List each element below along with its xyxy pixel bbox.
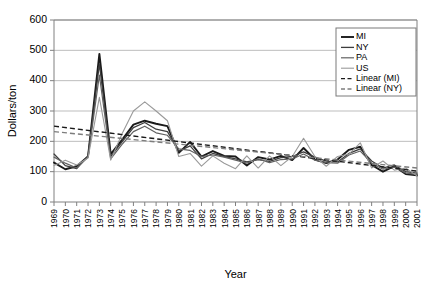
x-tick-label: 1995: [344, 209, 354, 228]
x-tick-label: 1999: [390, 209, 400, 228]
x-tick-label: 1972: [83, 209, 93, 228]
y-axis-title: Dollars/ton: [6, 85, 18, 138]
x-tick-label: 1976: [129, 209, 139, 228]
x-tick-label: 1975: [117, 209, 127, 228]
x-tick-label: 1977: [140, 209, 150, 228]
y-tick-label: 500: [29, 43, 47, 55]
x-axis-title: Year: [224, 268, 247, 280]
x-tick-label: 1985: [231, 209, 241, 228]
x-tick-label: 1974: [106, 209, 116, 228]
x-tick-label: 1996: [356, 209, 366, 228]
legend-label: US: [356, 63, 369, 73]
x-tick-label: 1970: [61, 209, 71, 228]
chart-canvas: 0100200300400500600196919701971197219731…: [0, 0, 436, 285]
legend-label: Linear (MI): [356, 73, 400, 83]
y-tick-label: 0: [41, 195, 47, 207]
y-tick-label: 400: [29, 73, 47, 85]
x-tick-label: 1986: [242, 209, 252, 228]
y-tick-label: 600: [29, 13, 47, 25]
x-tick-label: 1984: [220, 209, 230, 228]
x-tick-label: 1973: [95, 209, 105, 228]
y-tick-label: 200: [29, 134, 47, 146]
x-tick-label: 1988: [265, 209, 275, 228]
legend: MINYPAUSLinear (MI)Linear (NY): [336, 28, 416, 96]
y-tick-label: 100: [29, 164, 47, 176]
x-tick-label: 1990: [288, 209, 298, 228]
x-tick-label: 1969: [49, 209, 59, 228]
legend-label: PA: [356, 52, 367, 62]
x-tick-label: 1989: [276, 209, 286, 228]
x-tick-label: 1982: [197, 209, 207, 228]
x-tick-label: 1981: [186, 209, 196, 228]
x-tick-label: 1992: [310, 209, 320, 228]
line-chart: 0100200300400500600196919701971197219731…: [0, 0, 436, 285]
x-tick-label: 1997: [367, 209, 377, 228]
x-tick-label: 1993: [322, 209, 332, 228]
legend-label: Linear (NY): [356, 83, 402, 93]
legend-label: NY: [356, 42, 369, 52]
x-tick-label: 1983: [208, 209, 218, 228]
x-tick-label: 1978: [151, 209, 161, 228]
x-tick-label: 2000: [401, 209, 411, 228]
x-tick-label: 2001: [412, 209, 422, 228]
x-tick-label: 1971: [72, 209, 82, 228]
x-tick-label: 1994: [333, 209, 343, 228]
x-tick-label: 1980: [174, 209, 184, 228]
x-tick-label: 1979: [163, 209, 173, 228]
x-tick-label: 1998: [378, 209, 388, 228]
legend-label: MI: [356, 31, 366, 41]
x-tick-label: 1987: [254, 209, 264, 228]
x-tick-label: 1991: [299, 209, 309, 228]
y-tick-label: 300: [29, 104, 47, 116]
